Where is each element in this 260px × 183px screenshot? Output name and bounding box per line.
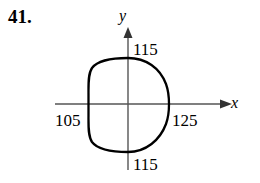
tick-label-left: 105 [55, 112, 81, 129]
y-axis-label: y [119, 8, 126, 24]
x-axis-label: x [231, 95, 238, 111]
tick-label-top: 115 [133, 41, 158, 58]
y-axis-arrowhead [124, 27, 133, 38]
curve-group [88, 58, 169, 152]
tick-label-bottom: 115 [133, 156, 158, 173]
tick-label-right: 125 [172, 112, 198, 129]
figure-container: 41. y x 115 115 105 125 [0, 0, 260, 183]
plot-area [0, 0, 260, 183]
plotted-curve [88, 58, 169, 152]
